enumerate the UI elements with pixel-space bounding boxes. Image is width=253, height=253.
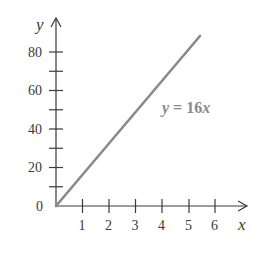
x-tick-label-6: 6	[211, 218, 218, 233]
equation-rest: = 16	[169, 99, 202, 116]
y-tick-label-60: 60	[28, 83, 42, 98]
x-tick-label-5: 5	[185, 218, 192, 233]
y-tick-label-20: 20	[28, 160, 42, 175]
equation-x: x	[201, 99, 210, 116]
y-tick-label-40: 40	[28, 122, 42, 137]
x-tick-label-4: 4	[158, 218, 165, 233]
data-line-y-equals-16x	[56, 36, 200, 206]
x-tick-label-1: 1	[79, 218, 86, 233]
equation-label: y = 16x	[160, 99, 210, 117]
y-tick-label-0: 0	[36, 199, 43, 214]
line-chart: 0 20 40 60 80 1 2 3 4 5 6 y x y = 16x	[0, 0, 253, 253]
x-tick-label-3: 3	[132, 218, 139, 233]
y-axis-label: y	[34, 15, 44, 34]
x-axis-label: x	[237, 215, 246, 234]
y-tick-label-80: 80	[28, 45, 42, 60]
x-tick-label-2: 2	[105, 218, 112, 233]
